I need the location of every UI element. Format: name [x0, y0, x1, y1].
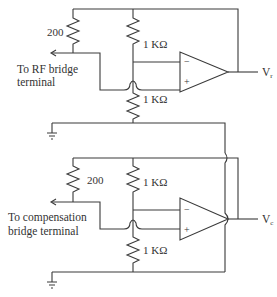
rf-bottom-rail — [52, 123, 225, 153]
comp-opamp-minus: − — [184, 204, 190, 215]
comp-terminal-label-1: To compensation — [8, 211, 87, 224]
rf-output-label: Vr — [262, 66, 273, 80]
comp-opamp-plus: + — [184, 224, 190, 235]
rf-circuit: 200 To RF bridge terminal 1 KΩ 1 KΩ − + … — [17, 9, 273, 153]
comp-200-resistor — [67, 158, 79, 202]
rf-1k-bottom-label: 1 KΩ — [143, 93, 167, 105]
comp-200-label: 200 — [87, 174, 104, 186]
compensation-circuit: 200 To compensation bridge terminal 1 KΩ… — [8, 153, 273, 288]
rf-1k-top-label: 1 KΩ — [143, 38, 167, 50]
rf-ground-icon — [47, 123, 57, 139]
comp-ground-icon — [47, 272, 57, 288]
rf-1k-top-resistor — [127, 9, 139, 84]
rf-terminal-label-1: To RF bridge — [17, 63, 78, 76]
rf-200-resistor — [67, 9, 79, 53]
comp-output-label: Vc — [262, 213, 273, 227]
crossover-wire — [225, 153, 228, 272]
rf-1k-bottom-resistor — [127, 84, 139, 123]
rf-200-label: 200 — [47, 26, 64, 38]
comp-terminal-label-2: bridge terminal — [8, 225, 79, 238]
circuit-diagram: 200 To RF bridge terminal 1 KΩ 1 KΩ − + … — [0, 0, 277, 297]
rf-opamp-minus: − — [184, 56, 190, 67]
rf-opamp-plus: + — [184, 76, 190, 87]
comp-1k-top-label: 1 KΩ — [143, 176, 167, 188]
comp-1k-bottom-resistor — [127, 223, 139, 272]
rf-terminal-label-2: terminal — [17, 76, 55, 88]
comp-1k-bottom-label: 1 KΩ — [143, 244, 167, 256]
comp-1k-top-resistor — [127, 158, 139, 223]
